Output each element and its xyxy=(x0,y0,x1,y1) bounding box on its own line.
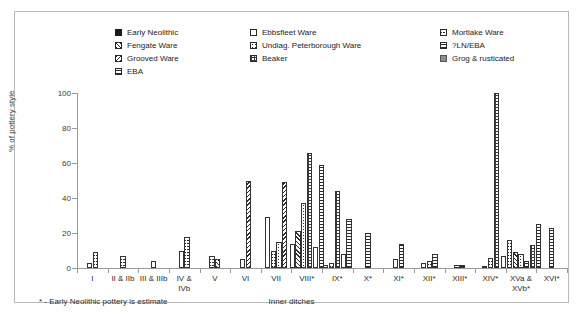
legend-swatch-icon xyxy=(115,42,122,49)
x-tick xyxy=(475,268,476,273)
legend-item: Fengate Ware xyxy=(115,41,250,50)
y-tick-label: 100 xyxy=(39,89,71,98)
legend-label: Fengate Ware xyxy=(127,41,177,50)
legend-label: Early Neolithic xyxy=(127,28,178,37)
chart-footnote: * - Early Neolithic pottery is estimate xyxy=(39,297,168,306)
legend-item: Early Neolithic xyxy=(115,28,250,37)
legend-swatch-icon xyxy=(440,55,447,62)
chart-frame: Early NeolithicEbbsfleet WareMortlake Wa… xyxy=(14,11,569,303)
x-tick xyxy=(230,268,231,273)
x-tick xyxy=(291,268,292,273)
legend-item: Mortlake Ware xyxy=(440,28,560,37)
legend-label: Grooved Ware xyxy=(127,54,179,63)
legend-item: Undiag. Peterborough Ware xyxy=(250,41,440,50)
x-tick xyxy=(169,268,170,273)
x-tick xyxy=(536,268,537,273)
legend-label: Mortlake Ware xyxy=(452,28,504,37)
x-tick xyxy=(567,268,568,273)
x-tick xyxy=(77,268,78,273)
y-tick-label: 20 xyxy=(39,229,71,238)
legend-item: Beaker xyxy=(250,54,440,63)
legend-swatch-icon xyxy=(115,68,122,75)
y-tick-label: 0 xyxy=(39,264,71,273)
x-tick xyxy=(414,268,415,273)
x-tick xyxy=(200,268,201,273)
x-tick xyxy=(353,268,354,273)
chart-legend: Early NeolithicEbbsfleet WareMortlake Wa… xyxy=(115,26,515,78)
legend-swatch-icon xyxy=(440,42,447,49)
legend-label: Beaker xyxy=(262,54,287,63)
legend-label: Undiag. Peterborough Ware xyxy=(262,41,361,50)
legend-item: ?LN/EBA xyxy=(440,41,560,50)
x-tick xyxy=(138,268,139,273)
x-tick xyxy=(261,268,262,273)
legend-label: Ebbsfleet Ware xyxy=(262,28,316,37)
legend-label: ?LN/EBA xyxy=(452,41,485,50)
legend-label: Grog & rusticated xyxy=(452,54,514,63)
legend-swatch-icon xyxy=(250,55,257,62)
x-tick xyxy=(108,268,109,273)
plot-area xyxy=(77,93,567,268)
x-tick xyxy=(445,268,446,273)
legend-item: Grog & rusticated xyxy=(440,54,560,63)
legend-label: EBA xyxy=(127,67,143,76)
y-axis-title: % of pottery style xyxy=(7,91,16,152)
legend-item: Ebbsfleet Ware xyxy=(250,28,440,37)
x-tick xyxy=(506,268,507,273)
x-tick xyxy=(383,268,384,273)
legend-item: Grooved Ware xyxy=(115,54,250,63)
legend-swatch-icon xyxy=(440,29,447,36)
x-tick xyxy=(322,268,323,273)
y-tick-label: 80 xyxy=(39,124,71,133)
y-tick-label: 60 xyxy=(39,159,71,168)
legend-swatch-icon xyxy=(115,55,122,62)
legend-swatch-icon xyxy=(115,29,122,36)
bar xyxy=(549,228,554,268)
legend-item: EBA xyxy=(115,67,250,76)
bar-group xyxy=(77,93,567,268)
legend-swatch-icon xyxy=(250,29,257,36)
y-tick-label: 40 xyxy=(39,194,71,203)
legend-swatch-icon xyxy=(250,42,257,49)
x-tick-label: XVI* xyxy=(530,274,573,284)
chart-screenshot: Early NeolithicEbbsfleet WareMortlake Wa… xyxy=(0,0,584,317)
